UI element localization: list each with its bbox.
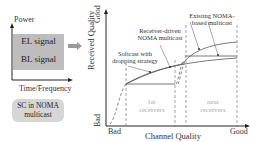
softcast-annotation: Softcast with dropping strategy [105,50,165,64]
near-line-2: receivers [192,106,234,114]
caption-pill: SC in NOMA multicast [12,99,64,122]
bl-signal-block: BL signal [13,48,64,70]
transition-arrow-body [68,44,77,48]
el-signal-block: EL signal [13,34,64,48]
softcast-leader [128,66,150,72]
existing-leader-1 [190,22,199,49]
softcast-line-2: dropping strategy [105,57,165,64]
receiver-line-2: NOMA multicast [132,34,188,41]
existing-line-2: based multicast [183,19,241,26]
receiver-driven-annotation: Receiver-driven NOMA multicast [132,27,188,41]
receiver-line-1: Receiver-driven [132,27,188,34]
existing-marker-1 [198,48,200,50]
y-bad-label: Bad [93,114,102,127]
existing-leader-2 [208,22,218,55]
softcast-marker [149,71,151,73]
softcast-line-1: Softcast with [105,50,165,57]
time-axis-label: Time/Frequency [19,84,72,93]
x-bad-label: Bad [108,127,121,136]
far-line-2: receivers [134,106,170,114]
transition-arrow-icon [77,42,82,50]
power-axis-label: Power [14,15,34,24]
far-receivers-region: far receivers [134,98,170,114]
y-good-label: Good [93,5,102,23]
x-good-label: Good [230,127,248,136]
near-line-1: near [192,98,234,106]
existing-line-1: Existing NOMA- [183,12,241,19]
caption-line-2: multicast [12,110,64,119]
existing-noma-annotation: Existing NOMA- based multicast [183,12,241,26]
softcast-rise-curve [110,84,126,124]
caption-line-1: SC in NOMA [12,101,64,110]
near-receivers-region: near receivers [192,98,234,114]
quality-axis-arrow-icon [104,9,108,14]
far-line-1: far [134,98,170,106]
time-axis-arrow-icon [68,78,73,82]
receiver-marker [169,66,171,68]
existing-marker-2 [217,54,219,56]
channel-quality-label: Channel Quality [145,131,201,141]
